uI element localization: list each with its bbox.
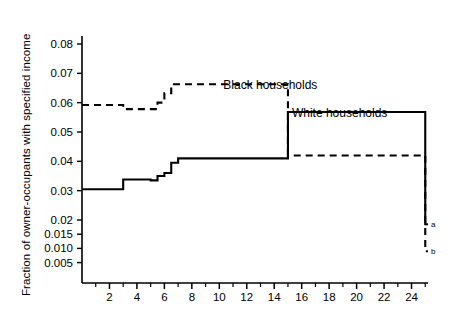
- series-label-white-households: White households: [292, 106, 387, 120]
- x-tick-label: 4: [134, 291, 141, 303]
- chart-plot-area: 0.080.070.060.050.040.030.020.0150.0100.…: [0, 0, 453, 320]
- x-tick-label: 20: [350, 291, 363, 303]
- y-tick-label: 0.005: [44, 257, 73, 269]
- x-tick-label: 12: [240, 291, 253, 303]
- axis-spines: [82, 36, 428, 283]
- y-tick-label: 0.06: [51, 97, 73, 109]
- y-tick-label: 0.015: [44, 228, 73, 240]
- x-tick-label: 2: [106, 291, 112, 303]
- x-tick-label: 10: [213, 291, 226, 303]
- y-tick-label: 0.07: [51, 67, 73, 79]
- y-tick-label: 0.04: [51, 155, 74, 167]
- x-tick-label: 18: [323, 291, 336, 303]
- x-tick-label: 6: [161, 291, 167, 303]
- x-tick-label: 16: [295, 291, 308, 303]
- y-tick-label: 0.010: [44, 242, 73, 254]
- series-line-white-households: [82, 112, 428, 224]
- y-tick-label: 0.03: [51, 185, 73, 197]
- endpoint-label-a: a: [431, 220, 436, 229]
- annotation-group: Black households White households a b: [223, 78, 436, 256]
- endpoint-label-b: b: [431, 247, 436, 256]
- y-axis-ticks: 0.080.070.060.050.040.030.020.0150.0100.…: [44, 38, 82, 269]
- y-axis-title: Fraction of owner-occupants with specifi…: [20, 34, 32, 297]
- x-tick-label: 14: [268, 291, 281, 303]
- x-tick-label: 22: [378, 291, 391, 303]
- x-axis-ticks: 24681012141618202224: [96, 283, 426, 303]
- chart-figure: Fraction of owner-occupants with specifi…: [0, 0, 453, 320]
- y-tick-label: 0.05: [51, 126, 73, 138]
- series-label-black-households: Black households: [223, 78, 317, 92]
- x-tick-label: 8: [189, 291, 195, 303]
- y-axis-title-container: Fraction of owner-occupants with specifi…: [0, 0, 30, 320]
- y-tick-label: 0.08: [51, 38, 73, 50]
- y-tick-label: 0.02: [51, 214, 73, 226]
- x-tick-label: 24: [405, 291, 418, 303]
